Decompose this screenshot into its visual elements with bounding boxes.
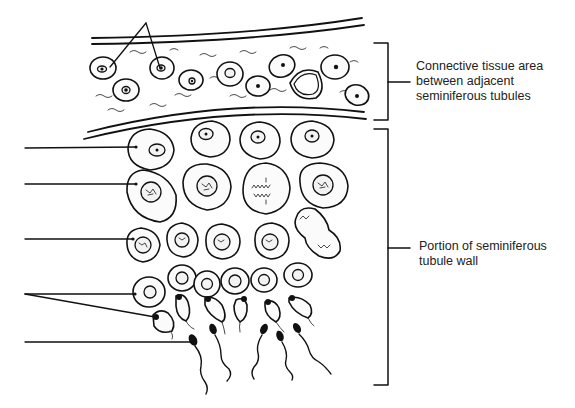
label-connective-tissue: Connective tissue area between adjacent …: [416, 59, 575, 104]
late-spermatids: [153, 294, 314, 339]
bracket-connective-tissue: [374, 43, 410, 120]
connective-tissue-band: [84, 18, 372, 139]
tubule-wall-cells: [127, 121, 348, 394]
spermatozoa: [187, 321, 331, 394]
bracket-tubule-wall: [374, 129, 410, 385]
connective-cells: [90, 51, 372, 108]
label-tubule-wall: Portion of seminiferous tubule wall: [419, 239, 569, 269]
